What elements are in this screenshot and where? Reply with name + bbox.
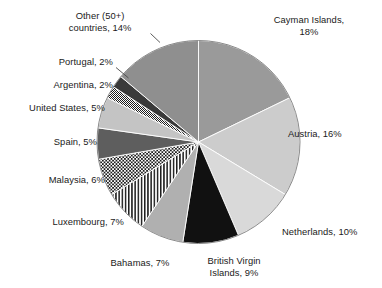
slice-label-malaysia: Malaysia, 6% bbox=[0, 174, 105, 186]
pie-chart: Other (50+) countries, 14% Portugal, 2% … bbox=[0, 0, 382, 288]
slice-label-netherlands: Netherlands, 10% bbox=[282, 226, 382, 238]
slice-label-portugal: Portugal, 2% bbox=[0, 56, 113, 68]
slice-label-austria: Austria, 16% bbox=[288, 128, 382, 140]
slice-label-united-states: United States, 5% bbox=[0, 102, 105, 114]
pie-slices bbox=[97, 41, 300, 244]
slice-label-other-countries: Other (50+) countries, 14% bbox=[40, 10, 160, 33]
slice-label-bahamas: Bahamas, 7% bbox=[92, 257, 188, 269]
slice-label-cayman-islands: Cayman Islands, 18% bbox=[253, 14, 365, 37]
slice-label-spain: Spain, 5% bbox=[0, 136, 97, 148]
slice-label-argentina: Argentina, 2% bbox=[0, 79, 113, 91]
slice-label-luxembourg: Luxembourg, 7% bbox=[0, 216, 124, 228]
leader-line-other bbox=[151, 34, 161, 43]
slice-label-british-virgin-islands: British Virgin Islands, 9% bbox=[186, 255, 282, 278]
